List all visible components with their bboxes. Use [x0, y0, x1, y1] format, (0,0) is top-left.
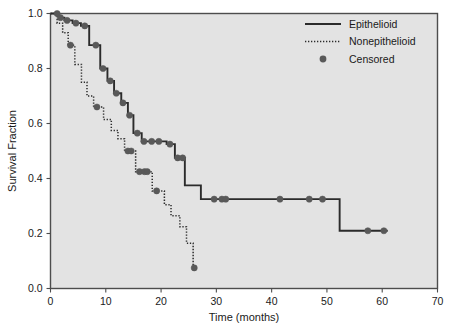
censored-marker — [134, 130, 140, 136]
x-tick-label: 10 — [100, 295, 112, 307]
censored-marker — [120, 100, 126, 106]
censored-marker — [180, 155, 186, 161]
legend-label: Epithelioid — [349, 18, 398, 30]
censored-marker — [94, 104, 100, 110]
censored-marker — [149, 138, 155, 144]
y-tick-label: 0.8 — [28, 62, 43, 74]
x-tick-label: 70 — [432, 295, 444, 307]
x-tick-label: 0 — [48, 295, 54, 307]
censored-marker — [82, 23, 88, 29]
censored-marker — [277, 196, 283, 202]
censored-marker — [126, 112, 132, 118]
censored-marker — [141, 138, 147, 144]
censored-marker — [113, 90, 119, 96]
legend-label: Nonepithelioid — [349, 35, 416, 47]
legend-filled-circle-icon — [320, 56, 327, 63]
censored-marker — [100, 65, 106, 71]
legend-label: Censored — [349, 53, 395, 65]
censored-marker — [319, 196, 325, 202]
censored-marker — [64, 17, 70, 23]
censored-marker — [144, 169, 150, 175]
plot-svg: 0102030405060700.00.20.40.60.81.0Time (m… — [0, 0, 455, 331]
censored-marker — [128, 148, 134, 154]
censored-marker — [154, 188, 160, 194]
censored-marker — [156, 138, 162, 144]
censored-marker — [73, 20, 79, 26]
censored-marker — [167, 141, 173, 147]
censored-marker — [223, 196, 229, 202]
x-tick-label: 60 — [376, 295, 388, 307]
censored-marker — [107, 78, 113, 84]
survival-chart-figure: 0102030405060700.00.20.40.60.81.0Time (m… — [0, 0, 455, 331]
censored-marker — [211, 196, 217, 202]
y-tick-label: 1.0 — [28, 7, 43, 19]
censored-marker — [365, 228, 371, 234]
y-tick-label: 0.6 — [28, 117, 43, 129]
x-tick-label: 40 — [266, 295, 278, 307]
censored-marker — [67, 42, 73, 48]
censored-marker — [381, 228, 387, 234]
y-tick-label: 0.2 — [28, 227, 43, 239]
censored-marker — [57, 15, 63, 21]
y-tick-label: 0.4 — [28, 172, 43, 184]
x-axis-title: Time (months) — [209, 311, 280, 323]
x-tick-label: 50 — [321, 295, 333, 307]
x-tick-label: 20 — [155, 295, 167, 307]
censored-marker — [93, 42, 99, 48]
y-axis-title: Survival Fraction — [6, 110, 18, 192]
x-tick-label: 30 — [211, 295, 223, 307]
y-tick-label: 0.0 — [28, 282, 43, 294]
censored-marker — [306, 196, 312, 202]
censored-marker — [191, 265, 197, 271]
